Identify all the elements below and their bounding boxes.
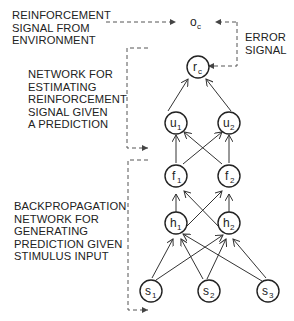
node-u2: u 2 — [218, 112, 240, 134]
svg-text:u: u — [223, 116, 230, 130]
svg-text:o: o — [190, 15, 197, 29]
svg-text:2: 2 — [230, 176, 235, 185]
network-graph: o c r c u 1 u 2 f 1 f 2 — [0, 0, 294, 321]
node-u1: u 1 — [165, 112, 187, 134]
svg-text:s: s — [203, 284, 209, 298]
svg-text:2: 2 — [230, 223, 235, 232]
svg-text:1: 1 — [152, 291, 157, 300]
svg-text:2: 2 — [210, 291, 215, 300]
node-h2: h 2 — [218, 212, 240, 234]
node-rc: r c — [187, 56, 209, 78]
svg-text:s: s — [262, 284, 268, 298]
estimating-bracket-arrow — [127, 48, 148, 148]
node-h1: h 1 — [165, 212, 187, 234]
svg-text:c: c — [197, 22, 201, 31]
node-f1: f 1 — [165, 165, 187, 187]
node-f2: f 2 — [218, 165, 240, 187]
svg-text:1: 1 — [177, 176, 182, 185]
svg-text:h: h — [170, 216, 177, 230]
svg-text:1: 1 — [177, 223, 182, 232]
node-s3: s 3 — [257, 280, 279, 302]
svg-text:h: h — [223, 216, 230, 230]
error-signal-arrow — [208, 22, 237, 66]
svg-text:2: 2 — [230, 123, 235, 132]
svg-text:s: s — [145, 284, 151, 298]
svg-text:c: c — [198, 67, 202, 76]
node-s2: s 2 — [198, 280, 220, 302]
svg-text:r: r — [193, 60, 197, 74]
svg-text:3: 3 — [269, 291, 274, 300]
diagram-root: REINFORCEMENT SIGNAL FROM ENVIRONMENT ER… — [0, 0, 294, 321]
svg-text:u: u — [170, 116, 177, 130]
node-oc: o c — [190, 15, 201, 31]
svg-text:1: 1 — [177, 123, 182, 132]
node-s1: s 1 — [140, 280, 162, 302]
